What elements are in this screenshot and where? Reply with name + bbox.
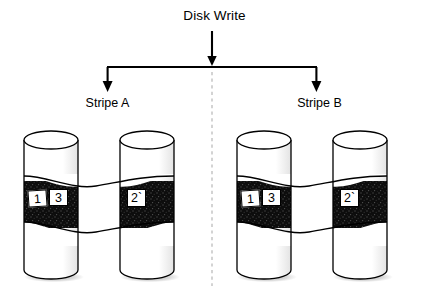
write-distribution-arrows	[103, 31, 322, 92]
stripe-b-label: Stripe B	[272, 96, 367, 110]
block-text: 3	[50, 192, 67, 205]
block-label-a1-1: 1	[27, 189, 47, 207]
block-text: 2`	[128, 192, 145, 205]
disk-write-striping-diagram: Disk Write Stripe A Stripe B 1 3 2` 1 3 …	[0, 0, 429, 296]
diagram-canvas	[0, 0, 429, 296]
block-text: 3	[263, 192, 280, 205]
block-text: 1	[242, 192, 260, 206]
block-label-a2-2: 2`	[127, 189, 146, 207]
page-title: Disk Write	[0, 8, 429, 23]
stripe-a-label: Stripe A	[60, 96, 155, 110]
block-text: 1	[29, 192, 47, 206]
block-label-b1-1: 1	[240, 189, 260, 207]
block-label-b1-3: 3	[262, 189, 281, 206]
block-label-b2-2: 2`	[340, 189, 359, 207]
block-text: 2`	[341, 192, 358, 205]
block-label-a1-3: 3	[49, 189, 68, 206]
